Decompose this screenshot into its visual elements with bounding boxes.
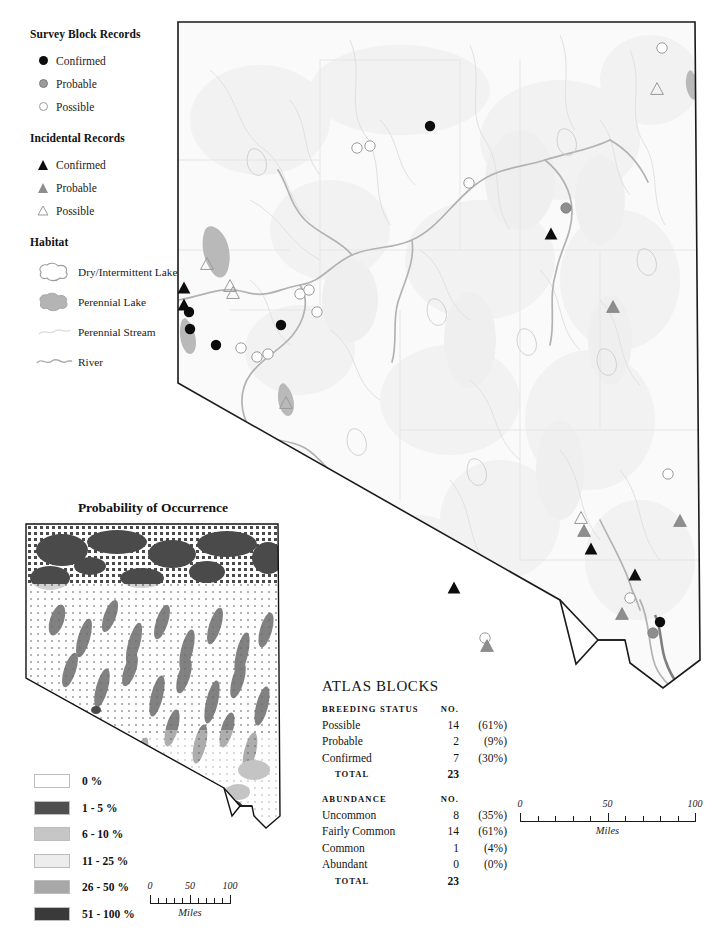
map-marker-dot-possible[interactable] xyxy=(352,143,362,153)
prob-swatch xyxy=(34,827,70,841)
triangle-possible-icon xyxy=(30,205,56,216)
table-total-row: TOTAL 23 xyxy=(322,873,507,890)
map-marker-dot-possible[interactable] xyxy=(263,349,273,359)
map-marker-dot-possible[interactable] xyxy=(625,593,635,603)
row-percent: (4%) xyxy=(463,840,507,857)
perennial-stream-icon xyxy=(30,325,78,339)
row-count: 0 xyxy=(421,857,463,874)
table-row: Possible 14 (61%) xyxy=(322,717,507,734)
row-percent: (30%) xyxy=(463,750,507,767)
scalebar-numbers: 0 50 100 xyxy=(520,798,695,811)
row-percent: (0%) xyxy=(463,857,507,874)
prob-label: 1 - 5 % xyxy=(82,802,117,814)
total-count: 23 xyxy=(421,873,463,890)
main-map-scalebar: 0 50 100 Miles xyxy=(520,798,695,836)
table-total-row: TOTAL 23 xyxy=(322,767,507,784)
prob-swatch xyxy=(34,907,70,921)
row-label: Fairly Common xyxy=(322,824,421,841)
legend-label: Perennial Stream xyxy=(78,326,155,338)
map-marker-dot-possible[interactable] xyxy=(480,633,490,643)
map-marker-dot-possible[interactable] xyxy=(312,307,322,317)
atlas-blocks-title: ATLAS BLOCKS xyxy=(322,678,512,695)
col-header-pct xyxy=(463,704,507,717)
row-count: 14 xyxy=(421,717,463,734)
row-label: Confirmed xyxy=(322,750,421,767)
table-row: Confirmed 7 (30%) xyxy=(322,750,507,767)
prob-class-3: 11 - 25 % xyxy=(34,848,135,875)
dry-lake-icon xyxy=(30,261,78,283)
legend-section-title-survey: Survey Block Records xyxy=(30,28,180,40)
col-header-no: NO. xyxy=(421,794,463,807)
legend-item-incidental-possible: Possible xyxy=(30,199,180,222)
table-row: Fairly Common 14 (61%) xyxy=(322,824,507,841)
atlas-section-abundance: ABUNDANCE NO. Uncommon 8 (35%) Fairly Co… xyxy=(322,794,512,890)
map-marker-dot-possible[interactable] xyxy=(236,343,246,353)
map-marker-dot-possible[interactable] xyxy=(304,285,314,295)
atlas-section-breeding-status: BREEDING STATUS NO. Possible 14 (61%) Pr… xyxy=(322,704,512,783)
map-marker-dot-confirmed[interactable] xyxy=(185,324,195,334)
row-percent: (35%) xyxy=(463,807,507,824)
legend-item-river: River xyxy=(30,347,180,377)
probability-inset[interactable]: Probability of Occurrence xyxy=(22,500,307,930)
scalebar-label-50: 50 xyxy=(603,798,613,809)
row-percent: (9%) xyxy=(463,734,507,751)
triangle-confirmed-icon xyxy=(30,160,56,170)
map-marker-triangle-confirmed[interactable] xyxy=(448,582,461,594)
row-label: Possible xyxy=(322,717,421,734)
prob-label: 0 % xyxy=(82,775,102,787)
scalebar-label-50: 50 xyxy=(185,880,195,891)
table-header-row: ABUNDANCE NO. xyxy=(322,794,507,807)
map-marker-dot-possible[interactable] xyxy=(365,141,375,151)
map-marker-dot-confirmed[interactable] xyxy=(211,340,221,350)
legend-label: Dry/Intermittent Lake xyxy=(78,266,177,278)
prob-swatch xyxy=(34,854,70,868)
breeding-status-table: BREEDING STATUS NO. Possible 14 (61%) Pr… xyxy=(322,704,507,783)
inset-scalebar: 0 50 100 Miles xyxy=(150,880,230,918)
col-header-status: BREEDING STATUS xyxy=(322,704,421,717)
legend-item-survey-possible: Possible xyxy=(30,95,180,118)
legend-section-title-incidental: Incidental Records xyxy=(30,132,180,144)
legend-label: Probable xyxy=(56,182,97,194)
map-marker-dot-possible[interactable] xyxy=(252,352,262,362)
prob-label: 11 - 25 % xyxy=(82,855,128,867)
table-row: Uncommon 8 (35%) xyxy=(322,807,507,824)
legend-item-incidental-confirmed: Confirmed xyxy=(30,153,180,176)
total-percent xyxy=(463,767,507,784)
map-marker-dot-possible[interactable] xyxy=(657,43,667,53)
legend-label: Probable xyxy=(56,78,97,90)
prob-class-1: 1 - 5 % xyxy=(34,795,135,822)
legend-item-incidental-probable: Probable xyxy=(30,176,180,199)
prob-class-5: 51 - 100 % xyxy=(34,901,135,928)
map-marker-dot-probable[interactable] xyxy=(648,628,658,638)
map-marker-dot-confirmed[interactable] xyxy=(655,617,665,627)
map-marker-dot-probable[interactable] xyxy=(561,203,571,213)
map-marker-dot-confirmed[interactable] xyxy=(425,121,435,131)
total-percent xyxy=(463,873,507,890)
legend-item-perennial-stream: Perennial Stream xyxy=(30,317,180,347)
map-legend: Survey Block Records Confirmed Probable … xyxy=(30,28,180,377)
inset-canvas[interactable]: 0 % 1 - 5 % 6 - 10 % 11 - 25 % 26 - 50 %… xyxy=(22,520,284,870)
table-row: Common 1 (4%) xyxy=(322,840,507,857)
map-marker-dot-possible[interactable] xyxy=(663,469,673,479)
row-count: 14 xyxy=(421,824,463,841)
river-icon xyxy=(30,355,78,369)
map-marker-dot-confirmed[interactable] xyxy=(184,307,194,317)
legend-section-title-habitat: Habitat xyxy=(30,236,180,248)
legend-item-survey-confirmed: Confirmed xyxy=(30,49,180,72)
map-marker-dot-possible[interactable] xyxy=(464,178,474,188)
prob-swatch xyxy=(34,801,70,815)
legend-label: Perennial Lake xyxy=(78,296,146,308)
col-header-pct xyxy=(463,794,507,807)
scalebar-label-0: 0 xyxy=(148,880,153,891)
scalebar-label-100: 100 xyxy=(688,798,703,809)
total-label: TOTAL xyxy=(322,767,421,784)
prob-class-4: 26 - 50 % xyxy=(34,874,135,901)
map-marker-dot-confirmed[interactable] xyxy=(276,320,286,330)
row-label: Common xyxy=(322,840,421,857)
prob-label: 6 - 10 % xyxy=(82,828,123,840)
atlas-blocks-panel: ATLAS BLOCKS BREEDING STATUS NO. Possibl… xyxy=(322,678,512,901)
triangle-probable-icon xyxy=(30,183,56,193)
legend-label: Confirmed xyxy=(56,159,106,171)
legend-label: River xyxy=(78,356,103,368)
scalebar-label-100: 100 xyxy=(223,880,238,891)
